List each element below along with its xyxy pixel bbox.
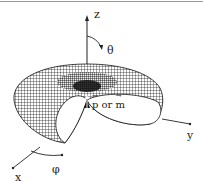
torus-diagram bbox=[0, 0, 203, 181]
theta-label: θ bbox=[107, 45, 114, 56]
phi-label: φ bbox=[52, 164, 60, 175]
x-arrow-icon bbox=[12, 167, 14, 169]
x-axis bbox=[12, 147, 40, 169]
y-axis bbox=[162, 119, 191, 125]
z-axis bbox=[85, 15, 89, 65]
m-vector-symbol: m bbox=[116, 100, 125, 110]
torus-body bbox=[14, 64, 163, 143]
y-axis-label: y bbox=[187, 130, 193, 141]
theta-arc bbox=[87, 36, 103, 50]
dipole-label: p or m bbox=[92, 100, 125, 110]
dipole-connector: or bbox=[102, 99, 113, 110]
z-axis-label: z bbox=[94, 9, 100, 20]
phi-arc bbox=[31, 151, 63, 156]
theta-arrow-icon bbox=[99, 45, 103, 50]
z-arrow-icon bbox=[85, 15, 89, 21]
phi-arrow-icon bbox=[61, 154, 63, 156]
p-vector-symbol: p bbox=[92, 100, 98, 110]
y-arrow-icon bbox=[189, 123, 191, 125]
x-axis-label: x bbox=[15, 172, 21, 181]
